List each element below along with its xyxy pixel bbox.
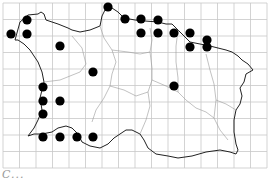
record-dot [136, 14, 145, 23]
record-dot [136, 28, 145, 37]
record-dot [72, 132, 81, 141]
record-dot [55, 132, 64, 141]
record-dot [153, 15, 162, 24]
record-dot [88, 67, 97, 76]
record-dot [185, 28, 194, 37]
record-dot [153, 28, 162, 37]
record-dot [103, 2, 112, 11]
map-caption: C... [2, 168, 25, 181]
record-dot [38, 109, 47, 118]
record-dot [55, 41, 64, 50]
record-dot [202, 35, 211, 44]
record-dot [55, 96, 64, 105]
record-dot [6, 29, 15, 38]
record-dot [88, 132, 97, 141]
record-dot [185, 42, 194, 51]
distribution-map [0, 0, 270, 182]
record-dot [38, 82, 47, 91]
record-dot [169, 81, 178, 90]
record-dot [22, 15, 31, 24]
record-dot [120, 14, 129, 23]
record-dot [38, 132, 47, 141]
record-dot [169, 28, 178, 37]
record-dot [38, 96, 47, 105]
record-dot [22, 29, 31, 38]
